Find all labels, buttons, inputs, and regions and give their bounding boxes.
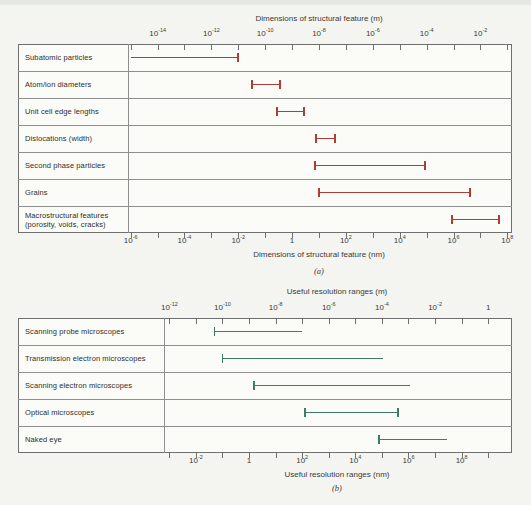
range-bar-end-cap [498, 215, 500, 224]
bottom-axis-tick-label: 10-2 [231, 236, 245, 245]
top-axis-tick-label: 1 [486, 303, 490, 312]
top-axis-tick [507, 45, 508, 50]
top-axis-tick [373, 45, 374, 50]
range-bar [305, 412, 398, 414]
top-axis-tick-label: 10-2 [428, 303, 442, 312]
bottom-axis-tick [276, 453, 277, 458]
bottom-axis-tick [488, 453, 489, 458]
top-axis-tick [222, 319, 223, 324]
row-label: Transmission electron microscopes [25, 345, 159, 372]
range-bar-end-cap [397, 408, 399, 417]
row-label: Grains [25, 179, 123, 206]
label-column-divider [128, 44, 129, 233]
range-bar [316, 138, 335, 140]
bottom-axis-tick [382, 453, 383, 458]
range-bar-start-cap [318, 188, 320, 197]
top-axis-tick-label: 10-8 [312, 29, 326, 38]
textbook-figure-page: Dimensions of structural feature (m) 10-… [0, 0, 531, 505]
scan-edge-artifact [0, 0, 531, 5]
range-bar-end-cap [303, 107, 305, 116]
bottom-axis-tick-label: 102 [340, 236, 352, 245]
top-axis-tick-label: 10-2 [474, 29, 488, 38]
bottom-axis-tick-label: 106 [448, 236, 460, 245]
top-axis-tick [169, 319, 170, 324]
range-bar-end-cap [334, 134, 336, 143]
top-axis-tick [382, 319, 383, 324]
top-axis-tick [346, 45, 347, 50]
bottom-axis-tick-label: 108 [456, 456, 468, 465]
bottom-axis-tick [319, 233, 320, 238]
top-axis-tick-label: 10-10 [257, 29, 274, 38]
chart-a-top-axis-title: Dimensions of structural feature (m) [255, 14, 382, 23]
top-axis-tick [454, 45, 455, 50]
bottom-axis-tick-label: 108 [501, 236, 513, 245]
bottom-axis-tick-label: 104 [394, 236, 406, 245]
bottom-axis-tick-label: 1 [247, 456, 251, 465]
top-axis-tick-label: 10-4 [375, 303, 389, 312]
top-axis-tick [211, 45, 212, 50]
bottom-axis-tick [373, 233, 374, 238]
top-axis-tick [196, 319, 197, 324]
row-label: Atom/ion diameters [25, 71, 123, 98]
top-axis-tick-label: 10-12 [161, 303, 178, 312]
range-bar [315, 165, 425, 167]
range-bar-start-cap [378, 435, 380, 444]
range-bar [277, 111, 304, 113]
row-label: Scanning probe microscopes [25, 318, 159, 345]
chart-b-bottom-axis-title: Useful resolution ranges (nm) [285, 470, 390, 479]
bottom-axis-tick [480, 233, 481, 238]
top-axis-tick-label: 10-6 [322, 303, 336, 312]
top-axis-tick-label: 10-12 [203, 29, 220, 38]
chart-b-caption: (b) [332, 483, 342, 493]
range-bar [252, 84, 280, 86]
top-axis-tick [488, 319, 489, 324]
bottom-axis-tick [427, 233, 428, 238]
top-axis-tick [408, 319, 409, 324]
row-label: Naked eye [25, 426, 159, 453]
top-axis-tick [462, 319, 463, 324]
bottom-axis-tick [265, 233, 266, 238]
range-bar-start-cap [222, 354, 224, 363]
bottom-axis-tick [435, 453, 436, 458]
bottom-axis-tick-label: 10-4 [178, 236, 192, 245]
bottom-axis-tick-label: 102 [296, 456, 308, 465]
range-bar-start-cap [314, 161, 316, 170]
top-axis-tick [435, 319, 436, 324]
range-bar-start-cap [304, 408, 306, 417]
range-bar [214, 331, 302, 333]
top-axis-tick-label: 10-10 [214, 303, 231, 312]
top-axis-tick [355, 319, 356, 324]
range-bar-start-cap [276, 107, 278, 116]
top-axis-tick [480, 45, 481, 50]
bottom-axis-tick-label: 10-2 [189, 456, 203, 465]
top-axis-tick-label: 10-6 [366, 29, 380, 38]
top-axis-tick [319, 45, 320, 50]
row-label: Subatomic particles [25, 44, 123, 71]
top-axis-tick [184, 45, 185, 50]
chart-b-top-axis-title: Useful resolution ranges (m) [287, 287, 387, 296]
range-bar-start-cap [253, 381, 255, 390]
row-label: Unit cell edge lengths [25, 98, 123, 125]
bottom-axis-tick [329, 453, 330, 458]
label-column-divider [164, 318, 165, 453]
range-bar-start-cap [315, 134, 317, 143]
range-bar-start-cap [214, 327, 216, 336]
range-bar-end-cap [237, 53, 239, 62]
top-axis-tick [276, 319, 277, 324]
row-label: Scanning electron microscopes [25, 372, 159, 399]
bottom-axis-tick [211, 233, 212, 238]
range-bar [452, 219, 499, 221]
range-bar [379, 439, 447, 441]
row-label: Optical microscopes [25, 399, 159, 426]
top-axis-tick-label: 10-4 [420, 29, 434, 38]
bottom-axis-tick-label: 104 [349, 456, 361, 465]
bottom-axis-tick [169, 453, 170, 458]
bottom-axis-tick-label: 1 [290, 236, 294, 245]
top-axis-tick [400, 45, 401, 50]
range-bar-start-cap [451, 215, 453, 224]
top-axis-tick [249, 319, 250, 324]
top-axis-tick [292, 45, 293, 50]
row-label: Macrostructural features(porosity, voids… [25, 206, 123, 233]
top-axis-tick [131, 45, 132, 50]
top-axis-tick [427, 45, 428, 50]
